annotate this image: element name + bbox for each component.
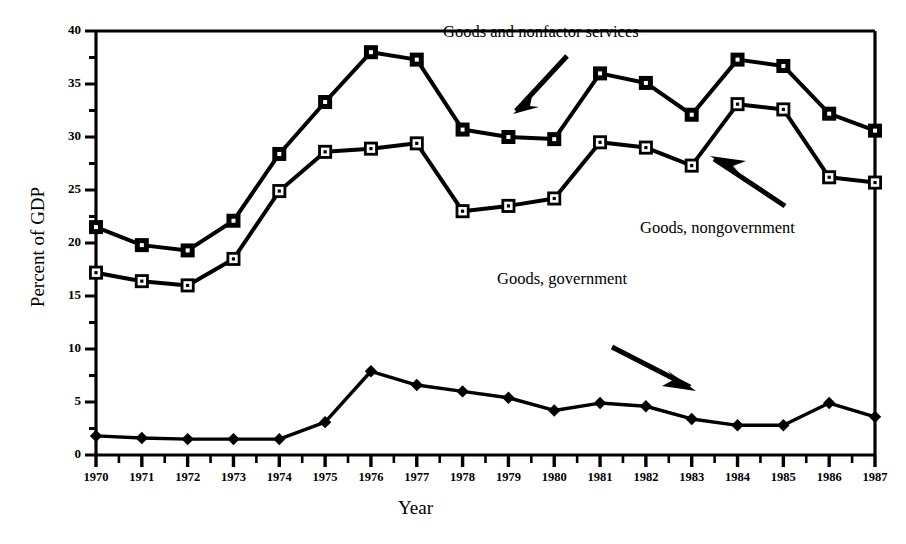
data-point-marker-center bbox=[552, 137, 556, 141]
y-tick-label: 0 bbox=[47, 446, 81, 462]
data-point-marker bbox=[181, 433, 193, 445]
data-point-marker-center bbox=[140, 243, 144, 247]
x-tick-label: 1986 bbox=[806, 470, 852, 485]
y-tick-label: 15 bbox=[47, 287, 81, 303]
y-axis-title: Percent of GDP bbox=[27, 177, 49, 317]
series-goods-government bbox=[90, 365, 881, 445]
series-layer bbox=[89, 45, 882, 445]
data-point-marker-center bbox=[369, 50, 373, 54]
line-chart-plot bbox=[0, 0, 906, 544]
data-point-marker bbox=[136, 432, 148, 444]
chart-figure: 0510152025303540 19701971197219731974197… bbox=[0, 0, 906, 544]
x-tick-label: 1987 bbox=[852, 470, 898, 485]
x-tick-label: 1976 bbox=[348, 470, 394, 485]
x-tick-label: 1975 bbox=[302, 470, 348, 485]
data-point-marker-center bbox=[690, 113, 694, 117]
data-point-marker-center bbox=[644, 146, 647, 149]
data-point-marker-center bbox=[873, 129, 877, 133]
x-tick-label: 1978 bbox=[440, 470, 486, 485]
annotation-goods-nongovernment: Goods, nongovernment bbox=[640, 218, 795, 238]
data-point-marker-center bbox=[140, 280, 143, 283]
y-tick-label: 40 bbox=[47, 22, 81, 38]
x-tick-label: 1973 bbox=[210, 470, 256, 485]
data-point-marker bbox=[731, 419, 743, 431]
x-tick-label: 1985 bbox=[760, 470, 806, 485]
annotation-goods-government: Goods, government bbox=[497, 269, 627, 289]
x-tick-label: 1984 bbox=[715, 470, 761, 485]
x-tick-label: 1979 bbox=[485, 470, 531, 485]
x-tick-label: 1970 bbox=[73, 470, 119, 485]
data-point-marker-center bbox=[369, 147, 372, 150]
data-point-marker bbox=[686, 413, 698, 425]
data-point-marker-center bbox=[231, 219, 235, 223]
y-tick-label: 30 bbox=[47, 128, 81, 144]
arrow-goods-government bbox=[612, 347, 696, 391]
data-point-marker-center bbox=[781, 64, 785, 68]
arrow-goods-and-nonfactor-services bbox=[513, 56, 567, 114]
x-tick-label: 1981 bbox=[577, 470, 623, 485]
data-point-marker bbox=[227, 433, 239, 445]
data-point-marker bbox=[90, 430, 102, 442]
data-point-marker-center bbox=[415, 58, 419, 62]
data-point-marker-center bbox=[736, 103, 739, 106]
series-line bbox=[96, 371, 875, 439]
data-point-marker-center bbox=[94, 225, 98, 229]
x-tick-label: 1977 bbox=[394, 470, 440, 485]
data-point-marker-center bbox=[461, 210, 464, 213]
data-point-marker bbox=[594, 397, 606, 409]
data-point-marker bbox=[640, 400, 652, 412]
data-point-marker-center bbox=[323, 100, 327, 104]
data-point-marker bbox=[502, 392, 514, 404]
annotation-goods-and-nonfactor-services: Goods and nonfactor services bbox=[443, 22, 639, 42]
data-point-marker-center bbox=[644, 81, 648, 85]
y-axis-ticks bbox=[85, 31, 96, 455]
data-point-marker-center bbox=[736, 58, 740, 62]
data-point-marker-center bbox=[461, 128, 465, 132]
data-point-marker-center bbox=[232, 257, 235, 260]
arrow-goods-nongovernment bbox=[710, 156, 785, 206]
data-point-marker-center bbox=[690, 164, 693, 167]
data-point-marker bbox=[411, 379, 423, 391]
y-tick-label: 10 bbox=[47, 340, 81, 356]
data-point-marker-center bbox=[598, 71, 602, 75]
x-tick-label: 1974 bbox=[256, 470, 302, 485]
series-goods-nongovernment bbox=[89, 97, 882, 292]
x-tick-label: 1982 bbox=[623, 470, 669, 485]
data-point-marker bbox=[823, 397, 835, 409]
x-axis-ticks bbox=[96, 455, 875, 467]
data-point-marker-center bbox=[415, 142, 418, 145]
data-point-marker-center bbox=[827, 112, 831, 116]
data-point-marker-center bbox=[598, 141, 601, 144]
data-point-marker-center bbox=[186, 248, 190, 252]
data-point-marker-center bbox=[94, 271, 97, 274]
y-tick-label: 35 bbox=[47, 75, 81, 91]
data-point-marker bbox=[777, 419, 789, 431]
data-point-marker-center bbox=[782, 108, 785, 111]
data-point-marker-center bbox=[278, 189, 281, 192]
data-point-marker bbox=[869, 411, 881, 423]
data-point-marker bbox=[273, 433, 285, 445]
x-axis-title: Year bbox=[398, 497, 433, 519]
y-tick-label: 5 bbox=[47, 393, 81, 409]
x-tick-label: 1983 bbox=[669, 470, 715, 485]
x-tick-label: 1972 bbox=[165, 470, 211, 485]
data-point-marker-center bbox=[828, 176, 831, 179]
data-point-marker-center bbox=[277, 152, 281, 156]
x-tick-label: 1971 bbox=[119, 470, 165, 485]
x-tick-label: 1980 bbox=[531, 470, 577, 485]
data-point-marker-center bbox=[186, 284, 189, 287]
data-point-marker-center bbox=[506, 135, 510, 139]
data-point-marker-center bbox=[324, 150, 327, 153]
plot-frame bbox=[96, 31, 875, 455]
data-point-marker-center bbox=[507, 204, 510, 207]
y-tick-label: 20 bbox=[47, 234, 81, 250]
data-point-marker-center bbox=[873, 181, 876, 184]
data-point-marker-center bbox=[553, 197, 556, 200]
y-tick-label: 25 bbox=[47, 181, 81, 197]
data-point-marker bbox=[456, 385, 468, 397]
data-point-marker bbox=[548, 404, 560, 416]
